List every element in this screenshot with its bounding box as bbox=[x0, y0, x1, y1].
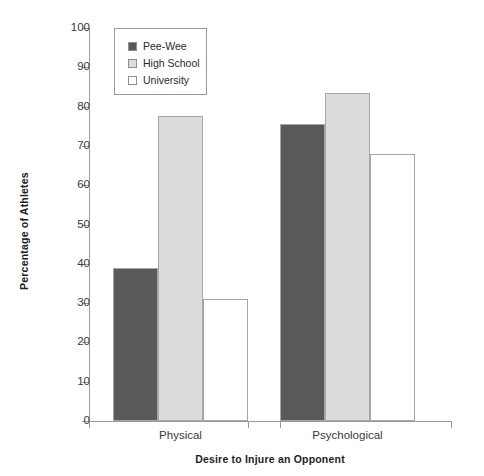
y-axis-title: Percentage of Athletes bbox=[18, 141, 30, 321]
y-tick-label: 30 bbox=[50, 297, 90, 309]
legend-label-2: University bbox=[143, 75, 189, 86]
y-tick-label: 80 bbox=[50, 101, 90, 113]
y-tick-10: 10 bbox=[0, 382, 90, 383]
y-tick-70: 70 bbox=[0, 146, 90, 147]
y-tick-label: 90 bbox=[50, 62, 90, 74]
legend-item-2: University bbox=[128, 72, 206, 88]
x-axis-title: Desire to Injure an Opponent bbox=[89, 453, 451, 465]
y-tick-60: 60 bbox=[0, 185, 90, 186]
legend-swatch-icon-1 bbox=[128, 59, 137, 68]
legend-item-0: Pee-Wee bbox=[128, 38, 206, 54]
bar-physical-pee-wee bbox=[113, 268, 158, 421]
x-tick-mark bbox=[451, 421, 452, 428]
legend-label-1: High School bbox=[143, 58, 200, 69]
bar-physical-high-school bbox=[158, 116, 203, 421]
bar-psychological-high-school bbox=[325, 93, 370, 421]
y-tick-90: 90 bbox=[0, 67, 90, 68]
y-tick-label: 0 bbox=[50, 415, 90, 427]
y-tick-label: 70 bbox=[50, 140, 90, 152]
x-axis-line bbox=[82, 421, 451, 422]
bar-chart: Percentage of Athletes 01020304050607080… bbox=[0, 0, 484, 476]
y-tick-100: 100 bbox=[0, 28, 90, 29]
x-category-label-psychological: Psychological bbox=[312, 429, 382, 441]
legend: Pee-Wee High School University bbox=[114, 28, 207, 95]
x-tick-mark bbox=[248, 421, 249, 428]
legend-label-0: Pee-Wee bbox=[143, 41, 187, 52]
bar-physical-university bbox=[203, 299, 248, 421]
bar-psychological-pee-wee bbox=[280, 124, 325, 421]
y-tick-0: 0 bbox=[0, 421, 90, 422]
y-tick-label: 60 bbox=[50, 179, 90, 191]
x-tick-mark bbox=[280, 421, 281, 428]
bar-psychological-university bbox=[370, 154, 415, 421]
y-tick-40: 40 bbox=[0, 264, 90, 265]
y-tick-20: 20 bbox=[0, 342, 90, 343]
legend-item-1: High School bbox=[128, 55, 206, 71]
y-tick-label: 50 bbox=[50, 219, 90, 231]
x-tick-mark bbox=[89, 421, 90, 428]
y-tick-label: 20 bbox=[50, 337, 90, 349]
y-tick-label: 40 bbox=[50, 258, 90, 270]
y-tick-label: 10 bbox=[50, 376, 90, 388]
y-tick-50: 50 bbox=[0, 225, 90, 226]
y-tick-80: 80 bbox=[0, 107, 90, 108]
legend-swatch-icon-2 bbox=[128, 76, 137, 85]
y-tick-30: 30 bbox=[0, 303, 90, 304]
x-category-label-physical: Physical bbox=[159, 429, 202, 441]
legend-swatch-icon-0 bbox=[128, 42, 137, 51]
y-tick-label: 100 bbox=[50, 22, 90, 34]
